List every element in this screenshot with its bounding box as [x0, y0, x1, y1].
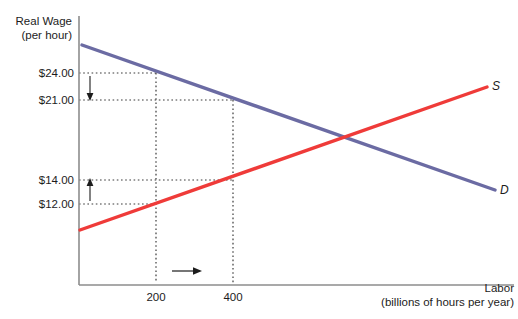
demand-curve — [82, 45, 495, 190]
wage-decrease-arrow — [87, 76, 94, 101]
y-tick-label-14: $14.00 — [6, 173, 74, 187]
x-axis-caption: Labor (billions of hours per year) — [294, 281, 514, 309]
demand-curve-label: D — [500, 183, 509, 197]
chart-plot-area — [0, 0, 518, 319]
x-axis-caption-line1: Labor — [294, 281, 514, 295]
y-axis-caption-line2: (per hour) — [8, 28, 72, 42]
supply-curve-label: S — [492, 79, 500, 93]
supply-demand-chart: Real Wage (per hour) $24.00 $21.00 $14.0… — [0, 0, 518, 319]
guide-lines — [79, 73, 233, 283]
x-axis-caption-line2: (billions of hours per year) — [294, 295, 514, 309]
y-tick-label-12: $12.00 — [6, 197, 74, 211]
y-axis-caption-line1: Real Wage — [8, 14, 72, 28]
y-tick-label-21: $21.00 — [6, 93, 74, 107]
x-tick-label-400: 400 — [213, 290, 253, 304]
x-tick-label-200: 200 — [136, 290, 176, 304]
y-axis-caption: Real Wage (per hour) — [8, 14, 72, 42]
supply-curve — [80, 87, 487, 230]
labor-increase-arrow — [172, 267, 202, 275]
wage-increase-arrow — [87, 178, 94, 201]
y-tick-label-24: $24.00 — [6, 66, 74, 80]
